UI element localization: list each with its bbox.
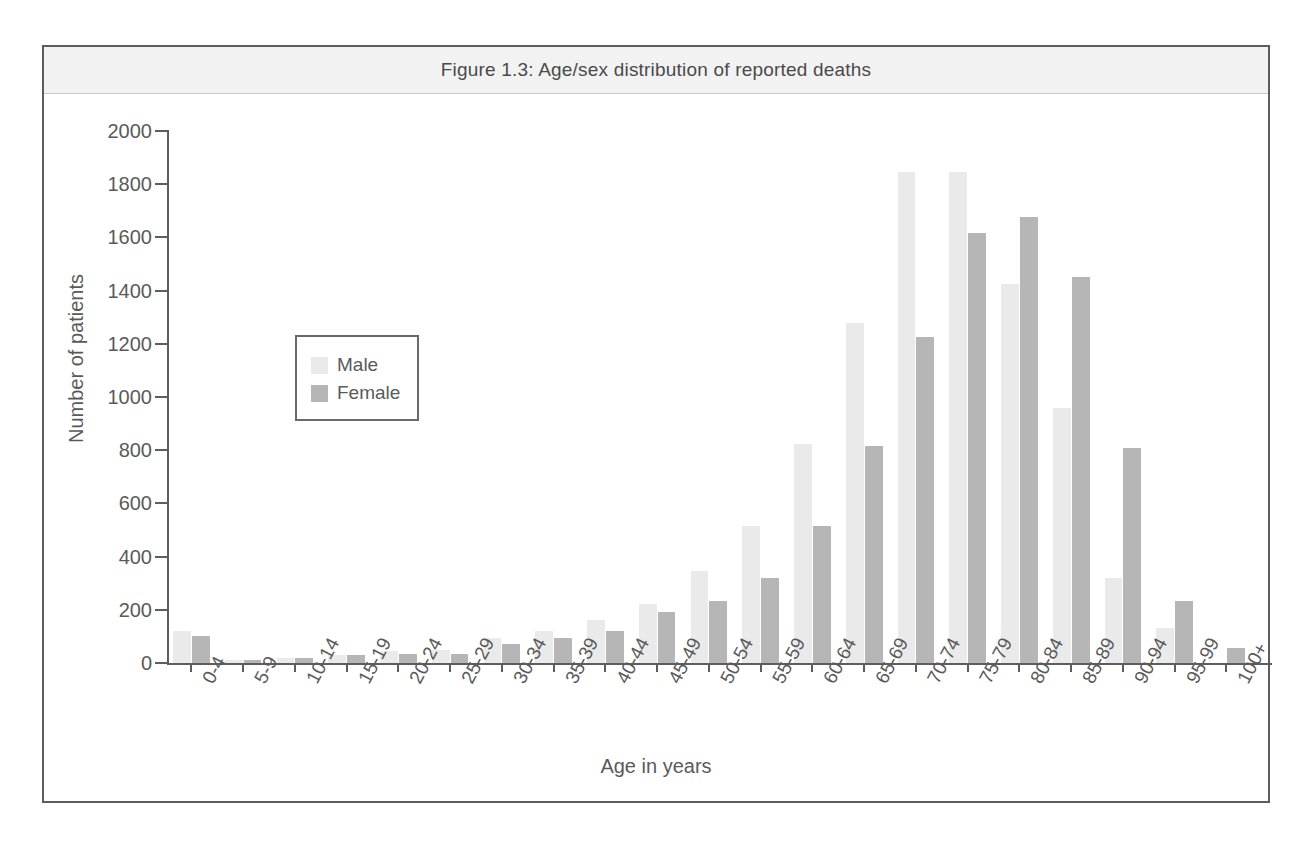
bar-group <box>794 131 846 663</box>
x-axis-tick <box>863 665 865 672</box>
bar-group <box>1053 131 1105 663</box>
x-axis-tick <box>294 665 296 672</box>
legend-item: Female <box>311 379 417 407</box>
chart-legend: MaleFemale <box>295 335 419 421</box>
x-axis-tick <box>1225 665 1227 672</box>
x-axis-tick <box>1122 665 1124 672</box>
bar-male-65-69 <box>846 323 864 663</box>
bar-male-75-79 <box>949 172 967 663</box>
bar-group <box>691 131 743 663</box>
bar-group <box>535 131 587 663</box>
bar-group <box>949 131 1001 663</box>
bar-group <box>587 131 639 663</box>
y-axis-tick-label: 600 <box>82 492 152 515</box>
legend-swatch-icon <box>311 385 328 402</box>
y-axis-tick-label: 1000 <box>82 386 152 409</box>
bar-group <box>1105 131 1157 663</box>
bar-female-70-74 <box>916 337 934 663</box>
x-axis-tick <box>1174 665 1176 672</box>
bar-female-55-59 <box>761 578 779 663</box>
y-axis-tick-label: 1400 <box>82 279 152 302</box>
bar-female-60-64 <box>813 526 831 663</box>
x-axis-tick <box>397 665 399 672</box>
page-title: Figure 1.3: Age/sex distribution of repo… <box>441 59 872 81</box>
legend-swatch-icon <box>311 357 328 374</box>
y-axis-tick-label: 1200 <box>82 332 152 355</box>
x-axis-tick <box>553 665 555 672</box>
bar-female-90-94 <box>1123 448 1141 663</box>
bar-group <box>742 131 794 663</box>
y-axis-tick-label: 200 <box>82 598 152 621</box>
bar-female-75-79 <box>968 233 986 663</box>
x-axis-tick <box>656 665 658 672</box>
y-axis-tick-label: 0 <box>82 652 152 675</box>
x-axis-tick <box>811 665 813 672</box>
bar-female-85-89 <box>1072 277 1090 663</box>
x-axis-tick <box>242 665 244 672</box>
bar-group <box>1001 131 1053 663</box>
bar-female-45-49 <box>658 612 676 663</box>
y-axis-title: Number of patients <box>65 159 88 559</box>
legend-label: Male <box>337 354 378 376</box>
legend-label: Female <box>337 382 400 404</box>
x-axis-tick <box>708 665 710 672</box>
x-axis-tick <box>604 665 606 672</box>
legend-item: Male <box>311 351 417 379</box>
x-axis-tick <box>501 665 503 672</box>
bar-group <box>484 131 536 663</box>
bar-male-60-64 <box>794 444 812 663</box>
figure-title-band: Figure 1.3: Age/sex distribution of repo… <box>44 47 1268 94</box>
bar-female-50-54 <box>709 601 727 664</box>
x-axis-tick <box>346 665 348 672</box>
bar-group <box>432 131 484 663</box>
y-axis-tick-label: 1600 <box>82 226 152 249</box>
bar-group <box>225 131 277 663</box>
bar-group <box>846 131 898 663</box>
bar-male-85-89 <box>1053 408 1071 663</box>
bar-male-80-84 <box>1001 284 1019 663</box>
x-axis-title: Age in years <box>44 755 1268 778</box>
y-axis-tick-label: 2000 <box>82 120 152 143</box>
x-axis-tick <box>449 665 451 672</box>
bar-female-80-84 <box>1020 217 1038 663</box>
x-axis-tick <box>915 665 917 672</box>
x-axis-tick <box>1070 665 1072 672</box>
bar-female-95-99 <box>1175 601 1193 664</box>
bar-male-70-74 <box>898 172 916 663</box>
bar-group <box>1156 131 1208 663</box>
y-axis-tick-label: 400 <box>82 545 152 568</box>
bar-group <box>639 131 691 663</box>
bar-group <box>1208 131 1260 663</box>
figure-page: Figure 1.3: Age/sex distribution of repo… <box>0 0 1306 842</box>
figure-frame: Figure 1.3: Age/sex distribution of repo… <box>42 45 1270 803</box>
y-axis-tick-label: 1800 <box>82 173 152 196</box>
bar-group <box>173 131 225 663</box>
bar-group <box>898 131 950 663</box>
bar-female-65-69 <box>865 446 883 663</box>
x-axis-tick <box>1018 665 1020 672</box>
x-axis-tick <box>190 665 192 672</box>
bar-male-0-4 <box>173 631 191 663</box>
x-axis-tick <box>760 665 762 672</box>
x-axis-tick <box>967 665 969 672</box>
y-axis-tick-label: 800 <box>82 439 152 462</box>
